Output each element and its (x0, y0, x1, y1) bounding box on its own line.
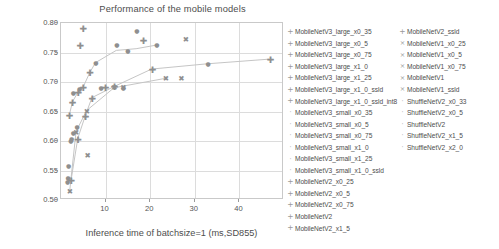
data-point: ✚ (149, 65, 157, 74)
data-point: ● (125, 48, 130, 54)
legend-item[interactable]: +MobileNetV3_large_x1_0_ssld_int8 (286, 95, 398, 107)
data-point: ● (66, 163, 71, 169)
legend-item[interactable]: ·ShuffleNetV2_x0_5 (398, 107, 499, 119)
data-point: ✚ (102, 83, 110, 92)
legend-item-label: MobileNetV3_small_x0_75 (295, 132, 372, 139)
legend-item-label: MobileNetV3_small_x1_25 (295, 155, 372, 162)
data-point: ✖ (178, 75, 184, 83)
gridline-horizontal (61, 171, 282, 172)
data-point: ✖ (163, 75, 169, 83)
legend-item-label: MobileNetV1 (407, 74, 444, 81)
legend-item[interactable]: ·MobileNetV3_small_x0_75 (286, 130, 398, 142)
legend-item[interactable]: ·ShuffleNetV2_x2_0 (398, 141, 499, 153)
x-tick-label: 10 (87, 204, 123, 213)
data-point: ✚ (69, 98, 77, 107)
trend-lines (61, 23, 282, 198)
legend-item-label: MobileNetV3_large_x1_25 (295, 74, 372, 81)
gridline-vertical (150, 23, 151, 198)
y-tick-mark (55, 22, 58, 23)
data-point: ● (66, 175, 71, 181)
legend-item-label: MobileNetV1_ssld (407, 86, 459, 93)
legend-marker-icon: + (286, 213, 295, 221)
y-tick-mark (55, 199, 58, 200)
gridline-vertical (239, 23, 240, 198)
legend-item[interactable]: +MobileNetV2_x1_5 (286, 222, 398, 234)
legend-marker-icon: + (286, 28, 295, 36)
legend-marker-icon: · (398, 121, 407, 128)
data-point: ✚ (88, 94, 96, 103)
legend-column-0: +MobileNetV3_large_x0_35+MobileNetV3_lar… (286, 26, 398, 234)
data-point: ✖ (67, 188, 73, 196)
legend-item-label: ShuffleNetV2_x0_5 (407, 109, 463, 116)
data-point: ✚ (140, 37, 148, 46)
legend-item[interactable]: +MobileNetV3_large_x0_75 (286, 49, 398, 61)
data-point: ✚ (86, 69, 94, 78)
legend-item[interactable]: ·MobileNetV3_small_x1_25 (286, 153, 398, 165)
legend-marker-icon: · (398, 132, 407, 139)
x-tick-label: 20 (131, 204, 167, 213)
legend-item[interactable]: +MobileNetV3_large_x1_0_ssld (286, 84, 398, 96)
legend-item[interactable]: ·MobileNetV3_small_x1_0 (286, 141, 398, 153)
legend-item[interactable]: +MobileNetV3_large_x0_35 (286, 26, 398, 38)
legend-marker-icon: · (398, 144, 407, 151)
x-tick-mark (238, 199, 239, 202)
data-point: ● (206, 61, 211, 67)
y-tick-label: 0.70 (18, 77, 58, 86)
legend-item-label: ShuffleNetV2 (407, 121, 445, 128)
data-point: ✖ (84, 108, 90, 116)
legend-marker-icon: + (286, 86, 295, 94)
legend-item[interactable]: ·ShuffleNetV2 (398, 118, 499, 130)
legend-item[interactable]: ·MobileNetV3_small_x0_35 (286, 107, 398, 119)
legend-item[interactable]: ×MobileNetV1_x0_25 (398, 38, 499, 50)
legend-item[interactable]: +MobileNetV2_x0_75 (286, 199, 398, 211)
legend-item[interactable]: +MobileNetV3_large_x0_5 (286, 38, 398, 50)
y-tick-label: 0.80 (18, 18, 58, 27)
legend-item[interactable]: +MobileNetV2_ssld (398, 26, 499, 38)
legend-marker-icon: × (398, 52, 407, 59)
legend-item[interactable]: ·MobileNetV3_small_x0_5 (286, 118, 398, 130)
legend-marker-icon: + (286, 63, 295, 71)
plot-area: ✚✚✚✚✚✚✚●●●●●●✚✚✚✚✚✚✖✖✖✖✖●●●●●●✚●✖●✚●●✖✖●… (60, 22, 283, 199)
data-point: ✚ (76, 42, 84, 51)
data-point: ● (77, 86, 82, 92)
legend-item-label: MobileNetV2_ssld (407, 28, 459, 35)
data-point: ✖ (120, 85, 126, 93)
legend-item-label: MobileNetV2_x0_5 (295, 190, 350, 197)
legend-marker-icon: + (286, 178, 295, 186)
legend-item[interactable]: ×MobileNetV1_x0_75 (398, 61, 499, 73)
legend: +MobileNetV3_large_x0_35+MobileNetV3_lar… (286, 26, 499, 226)
legend-marker-icon: · (286, 144, 295, 151)
legend-item-label: MobileNetV3_large_x1_0_ssld (295, 86, 383, 93)
legend-item-label: MobileNetV3_small_x0_35 (295, 109, 372, 116)
legend-item-label: MobileNetV3_large_x1_0_ssld_int8 (295, 98, 397, 105)
legend-item[interactable]: ×MobileNetV1_ssld (398, 84, 499, 96)
data-point: ● (154, 42, 159, 48)
legend-marker-icon: · (286, 109, 295, 116)
legend-item[interactable]: ·ShuffleNetV2_x0_33 (398, 95, 499, 107)
legend-marker-icon: + (286, 40, 295, 48)
mobilenetv3-large-trend (69, 45, 156, 114)
legend-item-label: MobileNetV1_x0_5 (407, 51, 462, 58)
legend-item-label: ShuffleNetV2_x0_33 (407, 98, 466, 105)
legend-item[interactable]: +MobileNetV2_x0_25 (286, 176, 398, 188)
y-axis: Accuracy 0.500.550.600.650.700.750.80 (0, 22, 58, 199)
legend-item[interactable]: +MobileNetV2_x0_5 (286, 188, 398, 200)
legend-item-label: MobileNetV3_small_x1_0_ssld (295, 167, 384, 174)
legend-item[interactable]: ·ShuffleNetV2_x1_5 (398, 130, 499, 142)
legend-item[interactable]: +MobileNetV3_large_x1_0 (286, 61, 398, 73)
data-point: ✖ (111, 85, 117, 93)
data-point: ✖ (85, 153, 91, 161)
legend-marker-icon: + (286, 97, 295, 105)
legend-marker-icon: + (398, 28, 407, 36)
gridline-horizontal (61, 82, 282, 83)
legend-item[interactable]: ·MobileNetV3_small_x1_0_ssld (286, 165, 398, 177)
legend-item[interactable]: +MobileNetV3_large_x1_25 (286, 72, 398, 84)
legend-item[interactable]: ×MobileNetV1_x0_5 (398, 49, 499, 61)
gridline-vertical (195, 23, 196, 198)
legend-item[interactable]: +MobileNetV2 (286, 211, 398, 223)
legend-item-label: MobileNetV3_large_x0_5 (295, 40, 368, 47)
y-tick-label: 0.50 (18, 195, 58, 204)
legend-item-label: MobileNetV1_x0_25 (407, 40, 466, 47)
y-tick-label: 0.60 (18, 136, 58, 145)
legend-item[interactable]: ×MobileNetV1 (398, 72, 499, 84)
